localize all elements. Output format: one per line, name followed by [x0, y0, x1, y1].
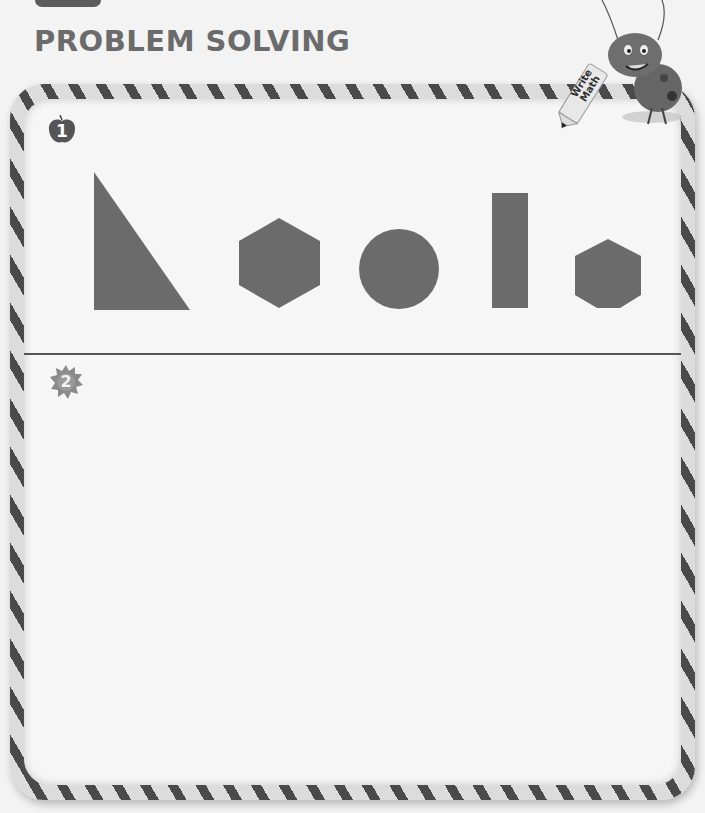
striped-frame	[10, 84, 695, 800]
section-divider	[24, 353, 681, 355]
page-title: PROBLEM SOLVING	[34, 24, 350, 58]
problem-1-number: 1	[47, 121, 77, 141]
problem-2-marker: 2	[48, 364, 84, 400]
write-math-mascot-icon	[540, 0, 705, 130]
problem-1-marker: 1	[47, 115, 77, 145]
top-tab	[35, 0, 101, 7]
problem-2-number: 2	[48, 372, 84, 392]
work-area	[24, 99, 681, 785]
